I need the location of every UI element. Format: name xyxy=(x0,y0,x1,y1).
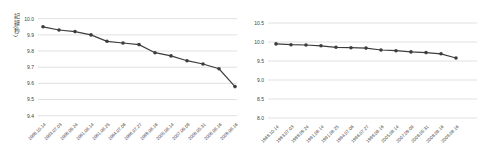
svg-text:10.5: 10.5 xyxy=(254,20,264,26)
svg-text:9.5: 9.5 xyxy=(257,58,264,64)
svg-text:10.0: 10.0 xyxy=(254,39,264,45)
chart-right: 10.510.09.59.08.58.01968.10.141983.07.03… xyxy=(240,0,481,155)
line-chart-right: 10.510.09.59.08.58.01968.10.141983.07.03… xyxy=(240,0,481,155)
svg-text:9.4: 9.4 xyxy=(27,113,34,119)
svg-text:9.6: 9.6 xyxy=(27,80,34,86)
y-axis-title: 記録(秒) xyxy=(13,13,19,38)
svg-text:9.7: 9.7 xyxy=(27,64,34,70)
svg-text:8.0: 8.0 xyxy=(257,115,264,121)
svg-text:10.0: 10.0 xyxy=(24,16,34,22)
svg-text:9.9: 9.9 xyxy=(27,32,34,38)
figure: 記録(秒) 10.09.99.89.79.69.59.41968.10.1419… xyxy=(0,0,481,155)
line-chart-left: 10.09.99.89.79.69.59.41968.10.141983.07.… xyxy=(0,0,240,155)
svg-text:9.0: 9.0 xyxy=(257,77,264,83)
svg-text:8.5: 8.5 xyxy=(257,96,264,102)
svg-text:2009.08.16: 2009.08.16 xyxy=(219,122,239,142)
chart-left: 記録(秒) 10.09.99.89.79.69.59.41968.10.1419… xyxy=(0,0,240,155)
svg-text:9.5: 9.5 xyxy=(27,96,34,102)
svg-text:9.8: 9.8 xyxy=(27,48,34,54)
